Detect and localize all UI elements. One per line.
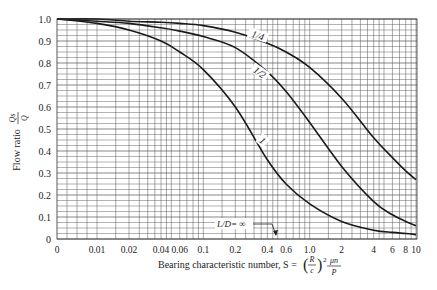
svg-text:0.1: 0.1 [39, 212, 52, 223]
curves [57, 19, 416, 235]
label-quarter: 1/4 [247, 27, 269, 43]
svg-text:6: 6 [390, 245, 395, 255]
svg-text:1.0: 1.0 [304, 245, 316, 255]
svg-text:(: ( [303, 256, 308, 274]
svg-text:0.5: 0.5 [39, 124, 52, 135]
svg-text:0.6: 0.6 [280, 245, 292, 255]
svg-text:0.6: 0.6 [39, 102, 52, 113]
svg-text:8: 8 [403, 245, 408, 255]
svg-text:Qs: Qs [8, 114, 17, 123]
svg-text:0.2: 0.2 [229, 245, 241, 255]
flow-ratio-chart: 00.10.20.30.40.50.60.70.80.91.000.010.02… [0, 0, 437, 290]
svg-text:0.7: 0.7 [39, 80, 52, 91]
svg-text:4: 4 [371, 245, 376, 255]
svg-text:0.8: 0.8 [39, 58, 52, 69]
svg-text:10: 10 [411, 245, 421, 255]
y-axis-label: Flow ratio Qs Q [8, 112, 29, 171]
svg-text:0: 0 [46, 234, 51, 245]
svg-text:0.4: 0.4 [39, 146, 52, 157]
svg-text:0.4: 0.4 [261, 245, 273, 255]
svg-text:2: 2 [323, 256, 327, 264]
svg-text:R: R [309, 255, 315, 264]
svg-text:0.2: 0.2 [39, 190, 52, 201]
svg-text:0.02: 0.02 [121, 245, 138, 255]
svg-text:c: c [310, 266, 314, 275]
svg-text:0.01: 0.01 [89, 245, 106, 255]
svg-text:2: 2 [339, 245, 344, 255]
svg-text:0.06: 0.06 [171, 245, 188, 255]
plot-grid [57, 19, 417, 239]
svg-text:): ) [317, 256, 322, 274]
svg-text:Bearing characteristic number,: Bearing characteristic number, S = [158, 259, 297, 270]
curve-1/4 [57, 19, 416, 180]
svg-text:Flow ratio: Flow ratio [11, 129, 22, 170]
svg-text:μn: μn [329, 256, 338, 265]
svg-text:Q: Q [20, 115, 29, 121]
svg-text:0: 0 [55, 245, 60, 255]
svg-text:1.0: 1.0 [39, 14, 52, 25]
svg-text:0.9: 0.9 [39, 36, 52, 47]
svg-text:0.1: 0.1 [197, 245, 209, 255]
curve-1 [57, 19, 416, 235]
svg-text:P: P [331, 268, 337, 277]
svg-text:0.3: 0.3 [39, 168, 52, 179]
svg-text:L/D= ∞: L/D= ∞ [216, 219, 246, 229]
svg-text:0.04: 0.04 [153, 245, 170, 255]
x-axis-label: Bearing characteristic number, S = ( R c… [158, 255, 341, 277]
